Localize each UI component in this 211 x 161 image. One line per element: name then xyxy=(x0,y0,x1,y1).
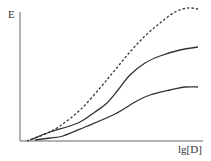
upper-solid-curve xyxy=(30,47,198,140)
chart-canvas xyxy=(0,0,211,161)
x-axis-label: lg[D] xyxy=(178,144,202,155)
lower-solid-curve xyxy=(35,87,198,140)
y-axis-label: E xyxy=(8,9,15,20)
dashed-curve xyxy=(27,8,198,141)
